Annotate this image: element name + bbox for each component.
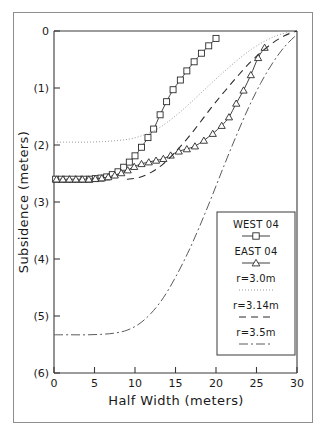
figure-canvas: 0 (1) (2) (3) (4) (5) (6) 0 5 10 15 20 2… — [0, 0, 328, 436]
figure-outer-border — [13, 12, 313, 423]
